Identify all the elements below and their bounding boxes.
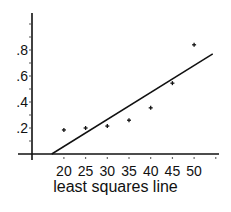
y-tick: [29, 101, 30, 102]
x-tick: [215, 157, 216, 158]
x-tick-label: 40: [143, 163, 159, 179]
regression-line: [52, 54, 213, 154]
x-tick: [107, 157, 108, 158]
data-point: [62, 128, 66, 132]
x-tick: [128, 157, 129, 158]
data-point: [170, 81, 174, 85]
x-tick-label: 45: [165, 163, 181, 179]
y-tick: [29, 88, 30, 89]
y-tick: [29, 62, 30, 63]
data-point: [105, 124, 109, 128]
y-tick: [29, 75, 30, 76]
y-tick: [29, 140, 30, 141]
y-tick-label: .4: [16, 94, 28, 110]
x-tick: [150, 157, 151, 158]
data-point: [149, 106, 153, 110]
chart-caption: least squares line: [0, 178, 231, 196]
x-tick-label: 50: [186, 163, 202, 179]
y-tick: [29, 127, 30, 128]
data-point: [192, 43, 196, 47]
x-tick: [172, 157, 173, 158]
x-tick-label: 30: [100, 163, 116, 179]
data-point: [84, 126, 88, 130]
x-tick: [63, 157, 64, 158]
data-point: [127, 118, 131, 122]
tick-labels: .2.4.6.820253035404550: [16, 42, 202, 179]
y-tick-label: .2: [16, 120, 28, 136]
y-tick: [29, 23, 30, 24]
least-squares-line: [52, 54, 213, 154]
axes: [18, 13, 219, 160]
y-tick-label: .8: [16, 42, 28, 58]
y-tick: [29, 36, 30, 37]
x-tick: [193, 157, 194, 158]
y-tick: [29, 49, 30, 50]
y-tick-label: .6: [16, 68, 28, 84]
x-tick-label: 35: [121, 163, 137, 179]
x-tick: [85, 157, 86, 158]
x-tick-label: 25: [78, 163, 94, 179]
data-points: [62, 43, 196, 132]
x-tick-label: 20: [56, 163, 72, 179]
y-tick: [29, 114, 30, 115]
